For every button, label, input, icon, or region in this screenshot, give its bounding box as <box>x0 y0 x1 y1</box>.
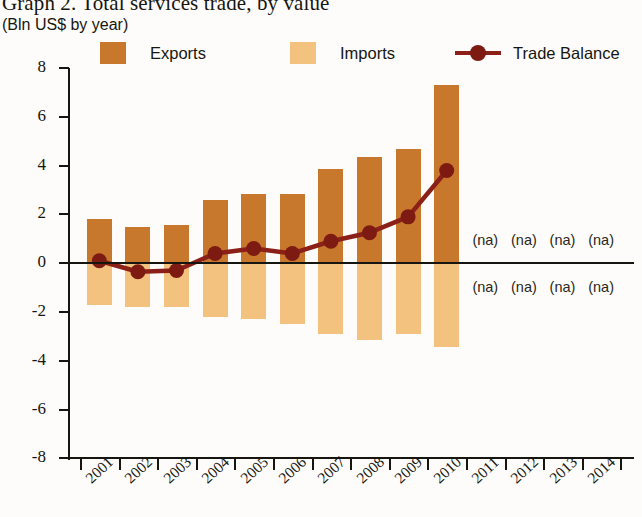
y-tick: -4 <box>59 360 69 362</box>
trade-balance-line <box>99 170 446 271</box>
y-tick-label: -8 <box>32 447 46 467</box>
y-tick: 2 <box>59 213 69 215</box>
exports-swatch-icon <box>100 42 126 64</box>
legend-label-exports: Exports <box>150 44 206 63</box>
bar-exports <box>434 85 459 263</box>
bar-imports <box>203 263 228 317</box>
y-tick: 6 <box>59 116 69 118</box>
chart-title: Graph 2. Total services trade, by value <box>2 0 329 16</box>
bar-imports <box>396 263 421 334</box>
na-label: (na) <box>550 279 576 295</box>
na-label: (na) <box>550 232 576 248</box>
imports-swatch-icon <box>290 42 316 64</box>
x-tick <box>80 459 82 470</box>
na-label: (na) <box>588 279 614 295</box>
x-tick <box>620 459 622 470</box>
trade-balance-marker-icon <box>455 42 501 64</box>
bar-exports <box>87 219 112 263</box>
chart-subtitle: (Bln US$ by year) <box>2 16 128 34</box>
x-tick <box>427 459 429 470</box>
y-tick: 8 <box>59 67 69 69</box>
x-tick <box>543 459 545 470</box>
x-tick <box>312 459 314 470</box>
bar-exports <box>241 194 266 264</box>
y-tick-label: 0 <box>38 252 47 272</box>
na-label: (na) <box>472 279 498 295</box>
y-tick: -6 <box>59 409 69 411</box>
bar-imports <box>357 263 382 340</box>
y-tick-label: 8 <box>38 57 47 77</box>
bar-exports <box>318 169 343 263</box>
x-tick <box>350 459 352 470</box>
y-tick-label: -4 <box>32 350 46 370</box>
y-tick-label: -2 <box>32 301 46 321</box>
bar-imports <box>87 263 112 304</box>
x-tick <box>389 459 391 470</box>
bar-exports <box>203 200 228 263</box>
bar-imports <box>241 263 266 319</box>
bar-imports <box>164 263 189 307</box>
bar-exports <box>280 194 305 264</box>
x-tick <box>273 459 275 470</box>
y-tick: -2 <box>59 311 69 313</box>
bar-imports <box>125 263 150 307</box>
y-tick: 4 <box>59 165 69 167</box>
bar-imports <box>434 263 459 347</box>
x-tick <box>157 459 159 470</box>
services-trade-chart: Graph 2. Total services trade, by value … <box>0 0 642 517</box>
y-tick-label: -6 <box>32 399 46 419</box>
na-label: (na) <box>472 232 498 248</box>
bar-exports <box>396 149 421 264</box>
bar-exports <box>357 157 382 263</box>
x-tick <box>505 459 507 470</box>
x-tick <box>196 459 198 470</box>
x-tick <box>234 459 236 470</box>
x-tick <box>466 459 468 470</box>
na-label: (na) <box>511 279 537 295</box>
zero-baseline <box>68 262 634 264</box>
na-label: (na) <box>588 232 614 248</box>
x-tick <box>119 459 121 470</box>
bar-imports <box>280 263 305 324</box>
legend-label-trade-balance: Trade Balance <box>513 44 620 63</box>
bar-exports <box>164 225 189 263</box>
na-label: (na) <box>511 232 537 248</box>
bar-exports <box>125 227 150 264</box>
bar-imports <box>318 263 343 334</box>
y-tick-label: 6 <box>38 106 47 126</box>
y-tick-label: 4 <box>38 155 47 175</box>
x-tick <box>582 459 584 470</box>
plot-area: 86420-2-4-6-8 (na)(na)(na)(na)(na)(na)(n… <box>68 62 634 460</box>
legend-label-imports: Imports <box>340 44 395 63</box>
trade-balance-line-layer <box>68 62 634 460</box>
y-tick-label: 2 <box>38 203 47 223</box>
